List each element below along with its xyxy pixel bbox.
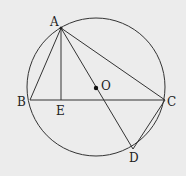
label-e: E	[56, 104, 65, 118]
label-a: A	[49, 15, 59, 29]
point-a-dot	[60, 27, 63, 30]
geometry-diagram: A B C D E O	[0, 0, 186, 176]
label-d: D	[129, 151, 139, 165]
label-b: B	[17, 95, 26, 109]
background	[0, 0, 186, 176]
label-c: C	[167, 95, 176, 109]
center-o-dot	[94, 86, 98, 90]
label-o: O	[101, 79, 111, 93]
